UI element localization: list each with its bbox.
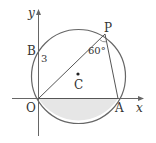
point-label-P: P — [104, 21, 112, 35]
segment-OP — [39, 34, 106, 99]
center-point-C — [76, 72, 79, 75]
y-axis-arrow-icon — [36, 9, 41, 15]
length-label-OB: 3 — [41, 53, 47, 64]
shaded-segment — [39, 99, 119, 121]
y-axis-label: y — [27, 6, 35, 20]
x-axis-label: x — [136, 101, 143, 115]
geometry-diagram: y x B 3 P 60° C O A — [0, 0, 156, 143]
point-label-B: B — [27, 44, 36, 58]
point-label-A: A — [114, 101, 124, 115]
angle-label-P: 60° — [88, 45, 106, 56]
angle-arc-P — [100, 40, 107, 42]
point-label-O: O — [26, 101, 36, 115]
point-label-C: C — [74, 78, 83, 92]
